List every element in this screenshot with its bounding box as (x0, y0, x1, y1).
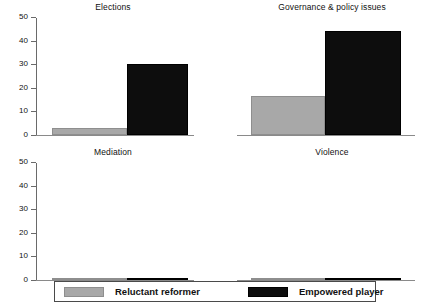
y-tick-50: 50 (31, 17, 36, 18)
bar-elections-empowered-player[interactable] (127, 64, 188, 135)
bar-group-mediation (37, 163, 194, 280)
y-tick-20: 20 (31, 233, 36, 234)
bar-mediation-empowered-player[interactable] (127, 278, 188, 280)
panel-title-mediation: Mediation (2, 147, 198, 157)
y-tick-label-10: 10 (19, 106, 28, 115)
y-tick-label-30: 30 (19, 59, 28, 68)
y-tick-label-40: 40 (19, 181, 28, 190)
y-tick-label-50: 50 (19, 157, 28, 166)
y-tick-50: 50 (31, 162, 36, 163)
bar-group-governance-policy-issues (238, 18, 415, 135)
y-tick-label-50: 50 (19, 12, 28, 21)
chart-figure: Elections 0 10 20 30 40 50 (0, 0, 421, 307)
y-tick-label-30: 30 (19, 204, 28, 213)
y-tick-label-20: 20 (19, 83, 28, 92)
chart-panel-violence: Violence (223, 147, 419, 287)
legend-entry-reluctant-reformer[interactable]: Reluctant reformer (64, 282, 200, 301)
chart-panel-elections: Elections 0 10 20 30 40 50 (2, 2, 198, 142)
bar-group-elections (37, 18, 194, 135)
y-tick-label-40: 40 (19, 36, 28, 45)
y-tick-40: 40 (31, 186, 36, 187)
y-tick-10: 10 (31, 256, 36, 257)
bar-group-violence (238, 163, 415, 280)
chart-panel-governance-policy-issues: Governance & policy issues (223, 2, 419, 142)
bar-governance-reluctant-reformer[interactable] (251, 96, 325, 135)
legend-swatch-icon-empowered-player (248, 287, 288, 297)
bar-violence-reluctant-reformer[interactable] (251, 278, 325, 280)
x-axis-baseline (237, 135, 415, 136)
y-tick-30: 30 (31, 209, 36, 210)
y-tick-0: 0 (31, 135, 36, 136)
bar-governance-empowered-player[interactable] (325, 31, 401, 135)
bar-elections-reluctant-reformer[interactable] (52, 128, 127, 135)
legend-label-reluctant-reformer: Reluctant reformer (115, 286, 200, 297)
chart-legend: Reluctant reformer Empowered player (54, 281, 376, 302)
plot-area-mediation: 0 10 20 30 40 50 (36, 163, 194, 281)
y-tick-10: 10 (31, 111, 36, 112)
plot-area-violence (237, 163, 415, 281)
legend-swatch-icon-reluctant-reformer (64, 287, 104, 297)
bar-violence-empowered-player[interactable] (325, 278, 401, 280)
plot-area-elections: 0 10 20 30 40 50 (36, 18, 194, 136)
y-tick-label-20: 20 (19, 228, 28, 237)
y-tick-label-0: 0 (24, 275, 28, 284)
y-tick-20: 20 (31, 88, 36, 89)
legend-label-empowered-player: Empowered player (299, 286, 383, 297)
y-tick-40: 40 (31, 41, 36, 42)
bar-mediation-reluctant-reformer[interactable] (52, 278, 127, 280)
x-axis-baseline (36, 135, 194, 136)
plot-area-governance-policy-issues (237, 18, 415, 136)
y-tick-label-10: 10 (19, 251, 28, 260)
panel-title-governance-policy-issues: Governance & policy issues (223, 2, 419, 12)
y-tick-30: 30 (31, 64, 36, 65)
chart-panel-mediation: Mediation 0 10 20 30 40 50 (2, 147, 198, 287)
panel-title-elections: Elections (2, 2, 198, 12)
y-tick-label-0: 0 (24, 130, 28, 139)
panel-title-violence: Violence (223, 147, 419, 157)
y-tick-0: 0 (31, 280, 36, 281)
legend-entry-empowered-player[interactable]: Empowered player (248, 282, 383, 301)
